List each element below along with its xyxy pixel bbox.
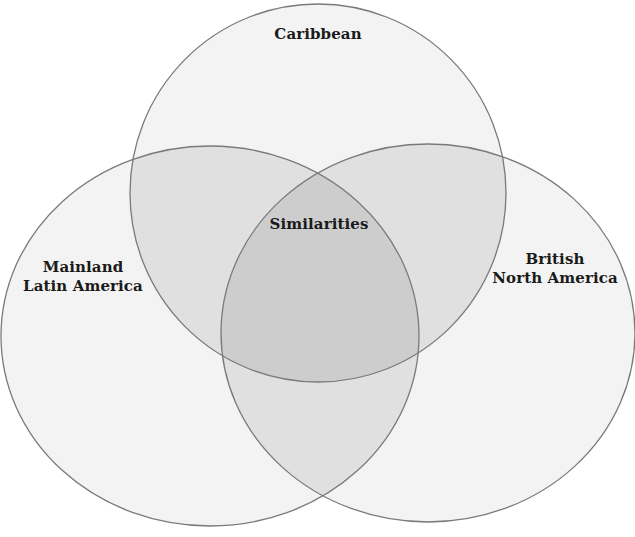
label-similarities-text: Similarities [262,215,376,234]
label-mainland-line-2: Latin America [22,277,144,296]
label-similarities: Similarities [262,215,376,234]
label-british-north-america: British North America [490,250,620,288]
label-mainland-line-1: Mainland [22,258,144,277]
label-british-line-1: British [490,250,620,269]
venn-diagram: Caribbean Mainland Latin America British… [0,0,635,537]
label-british-line-2: North America [490,269,620,288]
label-caribbean: Caribbean [266,25,370,44]
label-caribbean-line-1: Caribbean [266,25,370,44]
label-mainland-latin-america: Mainland Latin America [22,258,144,296]
